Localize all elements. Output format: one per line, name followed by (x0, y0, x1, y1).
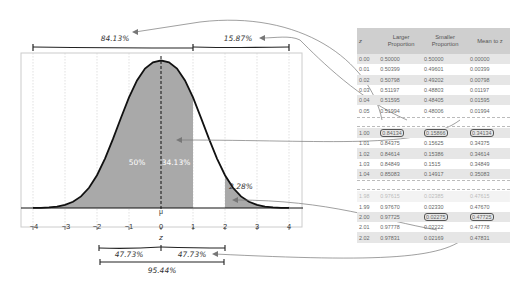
table-break (357, 180, 510, 190)
table-row: 0.010.503990.496010.00399 (357, 64, 510, 74)
circled-value: 0.34134 (470, 129, 494, 137)
table-row: 2.010.977780.022220.47778 (357, 222, 510, 232)
circled-value: 0.02275 (424, 213, 448, 221)
svg-text:1: 1 (191, 222, 195, 231)
table-row: 1.030.848490.15150.34849 (357, 159, 510, 169)
table-row: 1.990.976700.023300.47670 (357, 202, 510, 212)
header-smaller: Smaller Proportion (422, 34, 466, 47)
label-1587: 15.87% (224, 34, 253, 43)
table-row: 1.980.976150.023850.47615 (357, 191, 510, 201)
table-row: 0.020.507980.492020.00798 (357, 75, 510, 85)
svg-text:−2: −2 (93, 222, 102, 231)
top-bracket-1587 (193, 44, 289, 51)
z-table: z Larger Proportion Smaller Proportion M… (357, 28, 510, 243)
mean-symbol: μ (159, 208, 163, 216)
table-row: 2.020.978310.021690.47831 (357, 232, 510, 242)
table-row: 0.040.515950.484050.01595 (357, 95, 510, 105)
table-row: 1.020.846140.153860.34614 (357, 148, 510, 158)
svg-text:−4: −4 (30, 222, 39, 231)
circled-value: 0.84134 (380, 129, 404, 137)
header-larger: Larger Proportion (376, 34, 422, 47)
circled-value: 0.47725 (470, 213, 494, 221)
svg-text:2: 2 (223, 222, 227, 231)
table-row: 1.000.841340.158660.34134 (357, 128, 510, 138)
label-4773-right: 47.73% (178, 250, 207, 259)
svg-text:−3: −3 (62, 222, 71, 231)
top-bracket-8413 (33, 44, 193, 51)
table-row: 2.000.977250.022750.47725 (357, 212, 510, 222)
label-9544: 95.44% (148, 266, 177, 275)
table-row: 0.050.519940.480060.01994 (357, 105, 510, 115)
header-mean: Mean to z (466, 38, 510, 45)
label-50: 50% (129, 158, 146, 167)
svg-text:0: 0 (159, 222, 163, 231)
table-row: 1.010.843750.156250.34375 (357, 138, 510, 148)
table-header: z Larger Proportion Smaller Proportion M… (357, 28, 510, 54)
svg-text:−1: −1 (125, 222, 134, 231)
label-4773-left: 47.73% (115, 250, 144, 259)
circled-value: 0.15866 (424, 129, 448, 137)
table-row: 0.000.500000.500000.00000 (357, 54, 510, 64)
table-break (357, 117, 510, 127)
label-228: 2.28% (229, 182, 253, 191)
label-3413: 34.13% (162, 158, 191, 167)
table-row: 1.040.850830.149170.35083 (357, 169, 510, 179)
table-row: 0.030.511970.488030.01197 (357, 85, 510, 95)
svg-text:3: 3 (255, 222, 259, 231)
x-axis-label: z (158, 233, 163, 242)
svg-text:4: 4 (287, 222, 291, 231)
label-8413: 84.13% (101, 34, 130, 43)
header-z: z (357, 38, 376, 45)
